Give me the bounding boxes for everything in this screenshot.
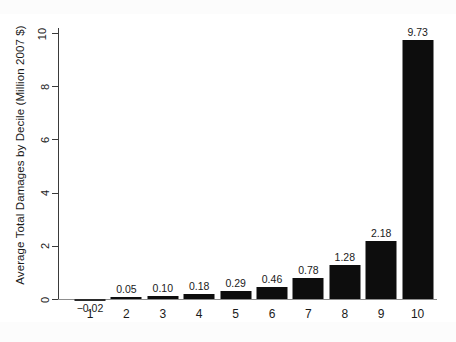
x-axis-tick-label: 6 — [269, 308, 276, 320]
y-axis-tick: 0 — [52, 299, 58, 300]
y-axis-tick-label: 2 — [39, 243, 50, 249]
y-axis-tick: 2 — [52, 246, 58, 247]
y-axis-tick: 6 — [52, 139, 58, 140]
bar-value-label: 9.73 — [407, 27, 427, 38]
x-axis-tick-label: 7 — [305, 308, 312, 320]
bar-value-label: 0.18 — [189, 281, 209, 292]
x-axis-tick-label: 10 — [411, 308, 424, 320]
x-axis-tick-label: 9 — [378, 308, 385, 320]
bar-value-label: 0.10 — [153, 283, 173, 294]
y-axis-tick-label: 0 — [39, 296, 50, 302]
bar — [75, 299, 106, 301]
y-axis-tick: 8 — [52, 86, 58, 87]
scan-band-bottom — [0, 322, 456, 342]
y-axis-tick-label: 6 — [39, 137, 50, 143]
x-axis-tick-label: 8 — [341, 308, 348, 320]
bar-value-label: 0.78 — [298, 265, 318, 276]
bar — [293, 278, 324, 299]
x-axis-tick-label: 4 — [196, 308, 203, 320]
bar-value-label: 2.18 — [371, 228, 391, 239]
y-axis-tick: 10 — [52, 33, 58, 34]
plot-area: 0246810 −0.020.050.100.180.290.460.781.2… — [58, 24, 438, 300]
bar-value-label: 0.05 — [116, 284, 136, 295]
bar-value-label: 1.28 — [335, 252, 355, 263]
scan-band-top — [0, 0, 456, 14]
y-axis-tick-label: 10 — [36, 27, 47, 39]
y-axis-label: Average Total Damages by Decile (Million… — [14, 25, 26, 284]
bar — [147, 296, 178, 299]
bar — [366, 241, 397, 299]
bar — [402, 40, 433, 299]
bar-value-label: 0.29 — [225, 278, 245, 289]
y-axis-tick-label: 4 — [39, 190, 50, 196]
y-axis-label-container: Average Total Damages by Decile (Million… — [0, 0, 40, 310]
bar — [111, 297, 142, 299]
bar — [257, 287, 288, 299]
x-axis-tick-label: 1 — [87, 308, 94, 320]
bar — [220, 291, 251, 299]
bar — [329, 265, 360, 299]
bar-value-label: 0.46 — [262, 274, 282, 285]
y-axis-spine — [58, 28, 59, 300]
y-axis-tick-label: 8 — [39, 84, 50, 90]
bar — [184, 294, 215, 299]
x-axis-spine — [58, 299, 437, 300]
bar-chart-figure: Average Total Damages by Decile (Million… — [0, 0, 456, 342]
x-axis-tick-label: 5 — [232, 308, 239, 320]
y-axis-tick: 4 — [52, 193, 58, 194]
x-axis-tick-label: 2 — [123, 308, 130, 320]
x-axis-tick-label: 3 — [159, 308, 166, 320]
